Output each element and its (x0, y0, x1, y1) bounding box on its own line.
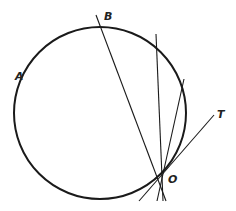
chord-OB (96, 15, 166, 201)
circle-tangent-diagram: A B O T (0, 0, 236, 211)
label-A: A (14, 70, 24, 83)
label-T: T (217, 108, 226, 121)
label-O: O (168, 173, 177, 186)
circle (14, 27, 186, 199)
label-B: B (104, 10, 112, 23)
